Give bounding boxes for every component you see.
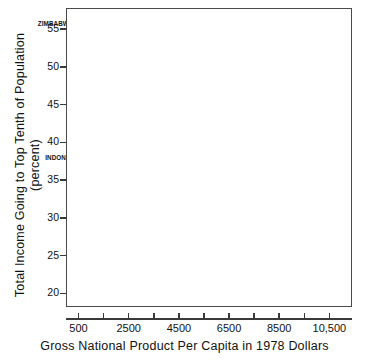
y-axis-tick-label: 20 xyxy=(47,286,59,298)
y-axis-tick-label: 55 xyxy=(47,22,59,34)
x-axis-tick-label: 6500 xyxy=(217,322,241,334)
y-axis-tick xyxy=(60,142,67,144)
x-axis-tick xyxy=(128,313,130,319)
x-axis-tick xyxy=(278,313,280,319)
y-axis-title-line1: Total Income Going to Top Tenth of Popul… xyxy=(13,33,27,297)
y-axis-tick-label: 40 xyxy=(47,135,59,147)
y-axis-tick-label: 25 xyxy=(47,249,59,261)
x-axis-tick-label: 8500 xyxy=(267,322,291,334)
x-axis-line xyxy=(66,318,352,320)
y-axis-tick xyxy=(60,255,67,257)
scatter-plot-figure: ECUADORZIMBABWEKENYAGABONBRAZILIRAQMADAG… xyxy=(0,0,369,362)
y-axis: 2025303540455055 xyxy=(0,0,369,362)
x-axis-tick-label: 10,500 xyxy=(313,322,347,334)
x-axis-tick xyxy=(228,313,230,319)
y-axis-tick xyxy=(60,66,67,68)
x-axis-tick xyxy=(329,313,331,319)
x-axis-minor-tick xyxy=(153,313,155,318)
y-axis-tick xyxy=(60,28,67,30)
x-axis-tick-label: 4500 xyxy=(167,322,191,334)
y-axis-tick-label: 50 xyxy=(47,60,59,72)
x-axis-minor-tick xyxy=(253,313,255,318)
x-axis-tick xyxy=(78,313,80,319)
x-axis-minor-tick xyxy=(103,313,105,318)
x-axis-title: Gross National Product Per Capita in 197… xyxy=(0,339,369,353)
y-axis-title: Total Income Going to Top Tenth of Popul… xyxy=(13,15,43,315)
x-axis-tick-label: 500 xyxy=(69,322,87,334)
x-axis-tick-label: 2500 xyxy=(116,322,140,334)
y-axis-tick xyxy=(60,217,67,219)
x-axis-minor-tick xyxy=(203,313,205,318)
y-axis-tick xyxy=(60,179,67,181)
x-axis-minor-tick xyxy=(304,313,306,318)
y-axis-title-line2: (percent) xyxy=(28,139,42,191)
y-axis-tick-label: 35 xyxy=(47,173,59,185)
y-axis-tick-label: 30 xyxy=(47,211,59,223)
y-axis-tick xyxy=(60,104,67,106)
y-axis-tick xyxy=(60,293,67,295)
y-axis-tick-label: 45 xyxy=(47,98,59,110)
x-axis-tick xyxy=(178,313,180,319)
